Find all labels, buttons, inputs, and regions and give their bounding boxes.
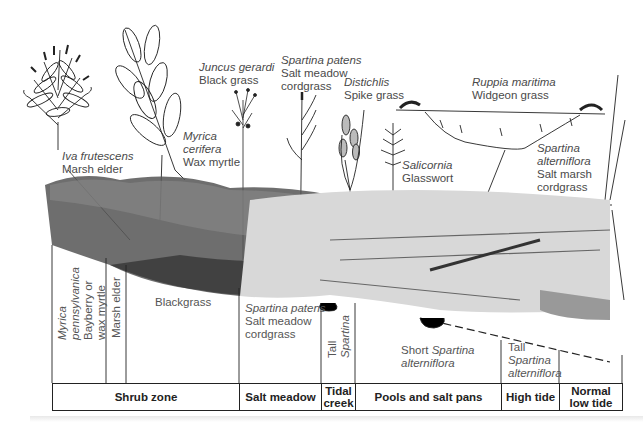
zone-line: Tidal — [325, 385, 352, 397]
marsh-elder-plant-drawing — [24, 45, 92, 150]
scientific-name: Salicornia — [402, 159, 453, 172]
zone-table: Shrub zone Salt meadow Tidal creek Pools… — [52, 383, 623, 411]
scientific-name: Ruppia maritima — [472, 76, 556, 89]
common-name: Tall — [326, 315, 339, 358]
common-name: Salt marsh — [537, 168, 592, 181]
label-myrica-cerifera: Myrica cerifera Wax myrtle — [183, 130, 240, 169]
common-name: Wax myrtle — [183, 156, 240, 169]
scientific-name: Spartina — [508, 354, 562, 367]
scientific-name: Distichlis — [344, 76, 404, 89]
scientific-name: Spartina patens — [281, 54, 362, 67]
cell-tall-spartina-alterniflora: Tall Spartina alterniflora — [508, 341, 562, 380]
common-name: Black grass — [199, 74, 274, 87]
scientific-name: alterniflora — [508, 367, 562, 380]
zone-high-tide: High tide — [502, 384, 560, 410]
common-name: Blackgrass — [155, 296, 211, 308]
page-shadow — [30, 416, 643, 422]
salt-marsh-diagram: Iva frutescens Marsh elder Myrica cerife… — [0, 0, 643, 432]
common-name: cordgrass — [537, 181, 592, 194]
common-name: wax myrtle — [95, 267, 108, 340]
zone-salt-meadow: Salt meadow — [240, 384, 322, 410]
zone-normal-low-tide: Normal low tide — [560, 384, 622, 410]
scientific-name: alterniflora — [537, 155, 592, 168]
common-name: Widgeon grass — [472, 89, 556, 102]
label-salicornia: Salicornia Glasswort — [402, 159, 453, 185]
common-name: Marsh elder — [62, 163, 134, 176]
label-spartina-alterniflora: Spartina alterniflora Salt marsh cordgra… — [537, 142, 592, 194]
prefix: Short — [401, 344, 432, 356]
common-name: Tall — [508, 341, 562, 354]
label-distichlis: Distichlis Spike grass — [344, 76, 404, 102]
scientific-name: alterniflora — [401, 357, 475, 370]
common-name: Glasswort — [402, 172, 453, 185]
label-iva-frutescens: Iva frutescens Marsh elder — [62, 150, 134, 176]
scientific-name: Myrica — [56, 267, 69, 340]
short-spartina-line1: Short Spartina — [401, 344, 475, 357]
common-name: Bayberry or — [82, 267, 95, 340]
cell-blackgrass: Blackgrass — [155, 296, 211, 309]
scientific-name: Spartina patens — [245, 302, 326, 315]
label-juncus-gerardi: Juncus gerardi Black grass — [199, 61, 274, 87]
zone-line: creek — [323, 397, 353, 409]
zone-tidal-creek: Tidal creek — [322, 384, 356, 410]
label-ruppia-maritima: Ruppia maritima Widgeon grass — [472, 76, 556, 102]
zone-line: Normal — [571, 385, 611, 397]
scientific-name: Spartina — [339, 315, 352, 358]
zone-shrub: Shrub zone — [53, 384, 240, 410]
common-name: Salt meadow — [245, 315, 326, 328]
zone-pools-salt-pans: Pools and salt pans — [356, 384, 502, 410]
common-name: Spike grass — [344, 89, 404, 102]
cell-myrica-pennsylvanica: Myrica pennsylvanica Bayberry or wax myr… — [56, 267, 108, 340]
zone-line: low tide — [570, 397, 613, 409]
cell-marsh-elder: Marsh elder — [110, 277, 123, 338]
cell-short-spartina: Short Spartina alterniflora — [401, 344, 475, 370]
scientific-name: cerifera — [183, 143, 240, 156]
scientific-name: Juncus gerardi — [199, 61, 274, 74]
common-name: cordgrass — [245, 328, 326, 341]
cell-spartina-patens: Spartina patens Salt meadow cordgrass — [245, 302, 326, 341]
scientific-name: pennsylvanica — [69, 267, 82, 340]
scientific-name: Myrica — [183, 130, 240, 143]
scientific-name: Iva frutescens — [62, 150, 134, 163]
scientific-name: Spartina — [537, 142, 592, 155]
scientific-name: Spartina — [432, 344, 475, 356]
cell-tall-spartina: Tall Spartina — [326, 315, 352, 358]
common-name: Marsh elder — [110, 277, 123, 338]
